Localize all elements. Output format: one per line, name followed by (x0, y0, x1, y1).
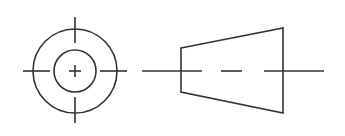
side-view (142, 28, 324, 113)
end-view (23, 17, 127, 123)
diagram-canvas (0, 0, 345, 136)
projection-drawing (0, 0, 345, 136)
